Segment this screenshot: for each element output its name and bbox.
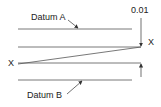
diagram-lines xyxy=(0,0,161,107)
sloped-surface-line xyxy=(18,47,141,64)
datum-b-label: Datum B xyxy=(27,91,62,100)
x-left-label: X xyxy=(8,59,14,68)
datum-a-leader xyxy=(68,20,78,28)
flatness-tolerance-diagram: Datum A 0.01 X X Datum B xyxy=(0,0,161,107)
x-right-label: X xyxy=(148,38,154,47)
datum-b-leader xyxy=(67,81,82,94)
tolerance-value-label: 0.01 xyxy=(131,6,149,15)
datum-a-label: Datum A xyxy=(31,13,66,22)
